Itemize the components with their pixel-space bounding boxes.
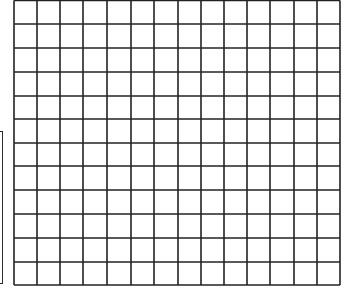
grid-cell[interactable] [270, 190, 294, 214]
grid-cell[interactable] [294, 166, 317, 190]
grid-cell[interactable] [131, 190, 154, 214]
grid-cell[interactable] [224, 1, 247, 25]
grid-cell[interactable] [201, 143, 224, 166]
grid-cell[interactable] [107, 166, 131, 190]
grid-cell[interactable] [107, 96, 131, 119]
grid-cell[interactable] [247, 24, 270, 48]
grid-cell[interactable] [14, 262, 37, 285]
grid-cell[interactable] [37, 262, 60, 285]
grid-cell[interactable] [201, 96, 224, 119]
grid-cell[interactable] [154, 96, 178, 119]
grid-cell[interactable] [178, 48, 201, 72]
grid-cell[interactable] [224, 262, 247, 285]
grid-cell[interactable] [131, 119, 154, 143]
grid-cell[interactable] [201, 238, 224, 262]
grid-cell[interactable] [317, 190, 340, 214]
grid-cell[interactable] [83, 96, 107, 119]
grid-cell[interactable] [37, 214, 60, 238]
grid-cell[interactable] [14, 24, 37, 48]
grid-cell[interactable] [224, 190, 247, 214]
grid-cell[interactable] [201, 262, 224, 285]
grid-cell[interactable] [107, 119, 131, 143]
grid-cell[interactable] [178, 143, 201, 166]
grid-cell[interactable] [14, 1, 37, 25]
grid-cell[interactable] [201, 24, 224, 48]
grid-cell[interactable] [270, 262, 294, 285]
grid-cell[interactable] [37, 1, 60, 25]
grid-cell[interactable] [131, 96, 154, 119]
grid-cell[interactable] [224, 96, 247, 119]
grid-cell[interactable] [60, 214, 83, 238]
grid-cell[interactable] [247, 96, 270, 119]
grid-cell[interactable] [178, 262, 201, 285]
grid-cell[interactable] [224, 143, 247, 166]
grid-cell[interactable] [60, 190, 83, 214]
grid-cell[interactable] [201, 166, 224, 190]
grid-cell[interactable] [83, 214, 107, 238]
grid-cell[interactable] [154, 238, 178, 262]
grid-cell[interactable] [247, 262, 270, 285]
grid-cell[interactable] [224, 238, 247, 262]
grid-cell[interactable] [294, 190, 317, 214]
grid-cell[interactable] [37, 166, 60, 190]
grid-cell[interactable] [131, 238, 154, 262]
grid-cell[interactable] [83, 262, 107, 285]
grid-cell[interactable] [270, 48, 294, 72]
grid-cell[interactable] [317, 143, 340, 166]
grid-cell[interactable] [294, 143, 317, 166]
grid-cell[interactable] [247, 214, 270, 238]
grid-cell[interactable] [294, 1, 317, 25]
grid-cell[interactable] [247, 72, 270, 96]
grid-cell[interactable] [37, 143, 60, 166]
grid-cell[interactable] [270, 214, 294, 238]
grid-cell[interactable] [14, 214, 37, 238]
grid-cell[interactable] [224, 166, 247, 190]
grid-cell[interactable] [60, 119, 83, 143]
grid-cell[interactable] [14, 166, 37, 190]
grid-cell[interactable] [154, 48, 178, 72]
grid-cell[interactable] [60, 262, 83, 285]
grid-cell[interactable] [247, 48, 270, 72]
grid-cell[interactable] [178, 214, 201, 238]
grid-cell[interactable] [107, 190, 131, 214]
grid-cell[interactable] [107, 48, 131, 72]
grid-cell[interactable] [131, 166, 154, 190]
grid-cell[interactable] [224, 24, 247, 48]
grid-cell[interactable] [83, 24, 107, 48]
grid-cell[interactable] [178, 96, 201, 119]
grid-cell[interactable] [178, 190, 201, 214]
grid-cell[interactable] [201, 190, 224, 214]
grid-cell[interactable] [131, 48, 154, 72]
grid-cell[interactable] [14, 119, 37, 143]
grid-cell[interactable] [83, 238, 107, 262]
grid-cell[interactable] [60, 1, 83, 25]
grid-cell[interactable] [294, 119, 317, 143]
grid-cell[interactable] [37, 119, 60, 143]
grid-cell[interactable] [60, 143, 83, 166]
grid-cell[interactable] [107, 24, 131, 48]
grid-cell[interactable] [107, 214, 131, 238]
grid-cell[interactable] [37, 190, 60, 214]
grid-cell[interactable] [201, 214, 224, 238]
grid-cell[interactable] [270, 96, 294, 119]
grid-cell[interactable] [60, 48, 83, 72]
grid-cell[interactable] [154, 1, 178, 25]
grid-cell[interactable] [131, 24, 154, 48]
grid-cell[interactable] [60, 166, 83, 190]
grid-cell[interactable] [154, 214, 178, 238]
grid-cell[interactable] [83, 166, 107, 190]
grid-cell[interactable] [294, 96, 317, 119]
grid-cell[interactable] [131, 262, 154, 285]
grid-cell[interactable] [131, 72, 154, 96]
grid-cell[interactable] [317, 96, 340, 119]
grid-cell[interactable] [83, 190, 107, 214]
grid-cell[interactable] [201, 72, 224, 96]
grid-cell[interactable] [14, 72, 37, 96]
grid-cell[interactable] [107, 1, 131, 25]
grid-cell[interactable] [60, 72, 83, 96]
grid-cell[interactable] [154, 262, 178, 285]
grid-cell[interactable] [178, 72, 201, 96]
grid-cell[interactable] [154, 166, 178, 190]
grid-cell[interactable] [317, 166, 340, 190]
grid-cell[interactable] [294, 238, 317, 262]
